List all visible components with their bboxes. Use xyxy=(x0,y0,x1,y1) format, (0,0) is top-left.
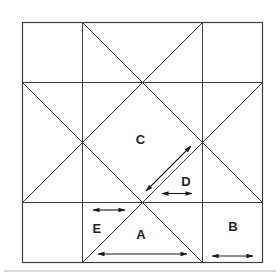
diagonal-from-top-right-down-left xyxy=(23,23,203,203)
label-a: A xyxy=(136,227,146,242)
diagonal-from-right-down-left xyxy=(83,83,263,263)
label-d: D xyxy=(181,174,191,189)
diagram-page: ABCDE xyxy=(0,0,280,280)
label-e: E xyxy=(93,221,102,236)
geometry-figure: ABCDE xyxy=(0,0,280,280)
label-c: C xyxy=(136,132,146,147)
arrow-layer xyxy=(93,146,253,256)
diagonal-from-left-down-right xyxy=(23,83,203,263)
diagonal-from-top-left-down-right xyxy=(83,23,263,203)
label-b: B xyxy=(228,219,238,234)
